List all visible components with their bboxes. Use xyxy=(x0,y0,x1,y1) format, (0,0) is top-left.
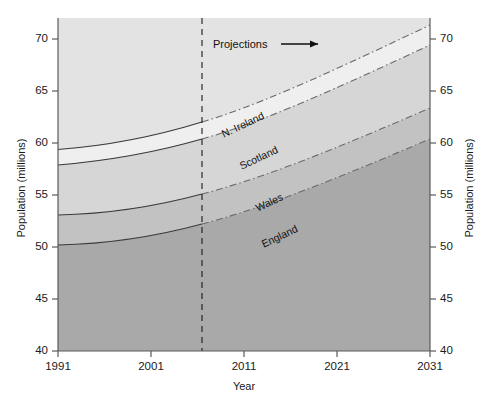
y-tick-label-left-60: 60 xyxy=(24,136,48,148)
y-tick-label-right-65: 65 xyxy=(440,84,464,96)
y-tick-label-left-40: 40 xyxy=(24,344,48,356)
x-ticks xyxy=(58,351,430,357)
y-tick-label-right-70: 70 xyxy=(440,32,464,44)
y-tick-label-right-50: 50 xyxy=(440,240,464,252)
y-tick-label-right-60: 60 xyxy=(440,136,464,148)
y-tick-label-left-50: 50 xyxy=(24,240,48,252)
x-axis-title: Year xyxy=(188,380,300,392)
x-tick-label-2031: 2031 xyxy=(407,360,453,372)
y-tick-label-left-70: 70 xyxy=(24,32,48,44)
y-ticks-left xyxy=(52,39,58,351)
chart-plot-area xyxy=(0,0,488,403)
y-tick-label-left-45: 45 xyxy=(24,292,48,304)
y-tick-label-left-55: 55 xyxy=(24,188,48,200)
x-tick-label-2001: 2001 xyxy=(128,360,174,372)
y-tick-label-right-40: 40 xyxy=(440,344,464,356)
y-tick-label-right-55: 55 xyxy=(440,188,464,200)
x-tick-label-1991: 1991 xyxy=(35,360,81,372)
projections-annotation-label: Projections xyxy=(213,38,267,50)
y-tick-label-left-65: 65 xyxy=(24,84,48,96)
population-stacked-area-chart: Projections 70 65 60 55 50 45 40 70 65 6… xyxy=(0,0,488,403)
y-tick-label-right-45: 45 xyxy=(440,292,464,304)
y-axis-title-left: Population (millions) xyxy=(15,118,27,258)
y-ticks-right xyxy=(430,39,436,351)
x-tick-label-2021: 2021 xyxy=(314,360,360,372)
y-axis-title-right: Population (millions) xyxy=(463,118,475,258)
x-tick-label-2011: 2011 xyxy=(221,360,267,372)
